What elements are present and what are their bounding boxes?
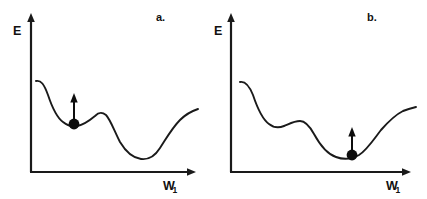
panel-a-ball-marker	[69, 119, 80, 130]
panel-b-ball-marker	[347, 150, 358, 161]
panel-b-x-axis-label-subscript: 1	[396, 185, 401, 195]
panel-a-caption-label: a.	[156, 11, 165, 23]
panel-a-y-axis-label: E	[13, 24, 21, 38]
panel-b-y-axis-label: E	[214, 24, 222, 38]
panel-a-x-axis-label-subscript: 1	[173, 185, 178, 195]
energy-landscape-figure: E W 1 a. E W 1 b.	[0, 0, 427, 199]
panel-b-caption-label: b.	[367, 11, 377, 23]
